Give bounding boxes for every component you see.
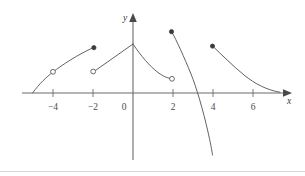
curve-branch-1 (33, 48, 94, 94)
y-axis-label: y (122, 13, 128, 23)
open-point-b (91, 69, 96, 74)
y-axis-arrowhead (129, 13, 137, 22)
closed-point-c (210, 44, 214, 48)
tick-label-origin: 0 (122, 102, 127, 112)
curve-branch-2 (94, 44, 133, 72)
open-point-c (170, 76, 175, 81)
x-axis-label: x (286, 96, 292, 106)
curve-branch-3 (133, 44, 172, 79)
tick-label-6: 6 (251, 102, 256, 112)
curve-branch-5 (213, 46, 281, 92)
open-point-a (51, 69, 56, 74)
footer-divider (0, 171, 305, 172)
closed-point-b (169, 30, 173, 34)
graph-figure: −4 −2 0 2 4 6 x y (0, 0, 305, 176)
closed-point-a (92, 46, 96, 50)
coordinate-plane-svg: −4 −2 0 2 4 6 x y (0, 0, 305, 176)
tick-label-4: 4 (211, 102, 216, 112)
tick-label-minus-4: −4 (48, 102, 58, 112)
tick-label-2: 2 (171, 102, 176, 112)
tick-label-minus-2: −2 (88, 102, 98, 112)
